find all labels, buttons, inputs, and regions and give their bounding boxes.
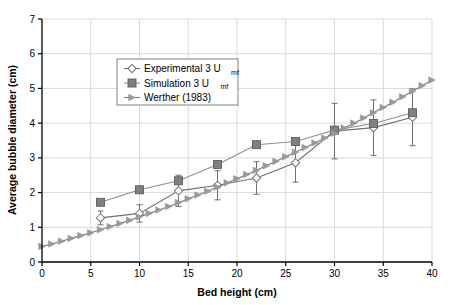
x-tick-label: 35 [378,268,390,279]
y-tick-label: 2 [29,187,35,198]
x-tick-label: 30 [329,268,341,279]
x-tick-label: 20 [231,268,243,279]
legend-label-subscript: mf [231,69,239,76]
y-tick-label: 5 [29,83,35,94]
data-point-marker [214,160,222,168]
data-point-marker [128,79,136,87]
data-point-marker [253,141,261,149]
chart-figure: 012345670510152025303540 Bed height (cm)… [0,0,451,305]
x-axis-title: Bed height (cm) [197,286,276,298]
legend: Experimental 3 UmfSimulation 3 UmfWerthe… [117,59,239,105]
y-tick-label: 0 [29,257,35,268]
x-tick-label: 10 [134,268,146,279]
x-tick-label: 40 [426,268,438,279]
legend-label: Experimental 3 U [144,63,221,74]
data-point-marker [97,198,105,206]
x-tick-label: 0 [39,268,45,279]
data-point-marker [136,186,144,194]
x-tick-label: 5 [88,268,94,279]
data-point-marker [409,109,417,117]
y-tick-label: 6 [29,48,35,59]
legend-label: Werther (1983) [144,92,211,103]
y-axis-title: Average bubble diameter (cm) [6,65,18,215]
x-tick-label: 25 [280,268,292,279]
data-point-marker [370,119,378,127]
legend-label: Simulation 3 U [144,78,209,89]
data-point-marker [175,177,183,185]
y-tick-label: 3 [29,152,35,163]
x-tick-label: 15 [183,268,195,279]
legend-label-subscript: mf [220,83,228,90]
y-tick-label: 7 [29,14,35,25]
y-tick-label: 1 [29,222,35,233]
y-tick-label: 4 [29,118,35,129]
data-point-marker [292,138,300,146]
chart-svg: 012345670510152025303540 Bed height (cm)… [0,0,451,305]
